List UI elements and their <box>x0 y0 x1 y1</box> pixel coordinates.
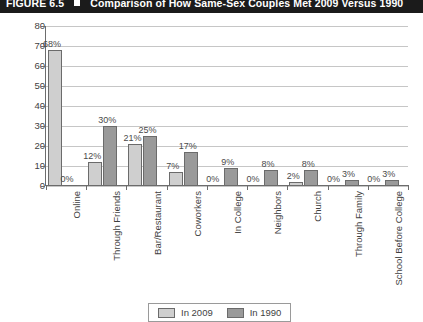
bar-group: 0%9% <box>207 26 247 186</box>
y-axis-tick-label: 60 <box>5 60 45 71</box>
chart-legend: In 2009In 1990 <box>148 303 291 322</box>
legend-swatch <box>227 308 244 318</box>
bar-value-label: 3% <box>376 169 402 179</box>
x-axis-tick-mark <box>368 185 369 190</box>
square-bullet-icon <box>74 0 80 6</box>
bar-value-label: 3% <box>336 169 362 179</box>
bar[interactable] <box>184 152 198 186</box>
bar-value-label: 25% <box>134 125 160 135</box>
y-axis-tick-label: 20 <box>5 140 45 151</box>
legend-label: In 1990 <box>250 307 282 318</box>
x-axis-tick-mark <box>46 185 47 190</box>
x-axis-tick-mark <box>86 185 87 190</box>
bar-value-label: 12% <box>79 151 105 161</box>
x-axis-labels: OnlineThrough FriendsBar/RestaurantCowor… <box>46 191 408 286</box>
x-axis-category-label: Through Friends <box>111 191 123 261</box>
bar-value-label: 68% <box>39 39 65 49</box>
x-axis-tick-mark <box>126 185 127 190</box>
bar-group: 0%3% <box>328 26 368 186</box>
bar-group: 12%30% <box>86 26 126 186</box>
bar-group: 2%8% <box>287 26 327 186</box>
chart-canvas: 01020304050607080 68%0%12%30%21%25%7%17%… <box>0 13 423 320</box>
x-axis-tick-mark <box>167 185 168 190</box>
bar-group: 7%17% <box>167 26 207 186</box>
x-axis-tick-mark <box>287 185 288 190</box>
bar[interactable] <box>169 172 183 186</box>
bar-value-label: 8% <box>255 159 281 169</box>
legend-swatch <box>158 308 175 318</box>
y-axis-tick-label: 0 <box>5 180 45 191</box>
bar[interactable] <box>103 126 117 186</box>
bar-value-label: 7% <box>160 161 186 171</box>
x-axis-category-label: Online <box>71 191 83 218</box>
bar-value-label: 30% <box>94 115 120 125</box>
bar-value-label: 8% <box>295 159 321 169</box>
bar[interactable] <box>224 168 238 186</box>
bar[interactable] <box>264 170 278 186</box>
bar-value-label: 0% <box>54 174 80 184</box>
y-axis: 01020304050607080 <box>0 26 45 186</box>
x-axis-ticks <box>46 185 408 190</box>
x-axis-tick-mark <box>408 185 409 190</box>
bar-value-label: 0% <box>200 174 226 184</box>
bar[interactable] <box>48 50 62 186</box>
legend-item[interactable]: In 2009 <box>158 307 213 318</box>
bar-value-label: 2% <box>280 171 306 181</box>
x-axis-category-label: Church <box>312 191 324 222</box>
x-axis-category-label: Through Family <box>353 191 365 257</box>
x-axis-tick-mark <box>247 185 248 190</box>
figure-caption: Comparison of How Same-Sex Couples Met 2… <box>90 0 403 9</box>
x-axis-tick-mark <box>207 185 208 190</box>
y-axis-tick-mark <box>41 186 45 187</box>
x-axis-category-label: School Before College <box>393 191 405 286</box>
bar[interactable] <box>128 144 142 186</box>
x-axis-category-label: Neighbors <box>272 191 284 234</box>
bar[interactable] <box>88 162 102 186</box>
bar-value-label: 0% <box>240 174 266 184</box>
y-axis-tick-label: 10 <box>5 160 45 171</box>
bar[interactable] <box>143 136 157 186</box>
x-axis-category-label: Coworkers <box>192 191 204 236</box>
legend-label: In 2009 <box>181 307 213 318</box>
y-axis-tick-label: 40 <box>5 100 45 111</box>
bar-value-label: 17% <box>175 141 201 151</box>
y-axis-tick-label: 80 <box>5 20 45 31</box>
bar-group: 0%8% <box>247 26 287 186</box>
y-axis-tick-label: 50 <box>5 80 45 91</box>
legend-item[interactable]: In 1990 <box>227 307 282 318</box>
bars-layer: 68%0%12%30%21%25%7%17%0%9%0%8%2%8%0%3%0%… <box>46 26 408 186</box>
figure-title-bar: FIGURE 6.5 Comparison of How Same-Sex Co… <box>0 0 423 13</box>
bar-group: 68%0% <box>46 26 86 186</box>
bar-value-label: 9% <box>215 157 241 167</box>
y-axis-tick-label: 30 <box>5 120 45 131</box>
x-axis-tick-mark <box>328 185 329 190</box>
figure-number: FIGURE 6.5 <box>6 0 64 9</box>
x-axis-category-label: Bar/Restaurant <box>152 191 164 255</box>
x-axis-category-label: In College <box>232 191 244 234</box>
bar-group: 0%3% <box>368 26 408 186</box>
bar[interactable] <box>304 170 318 186</box>
